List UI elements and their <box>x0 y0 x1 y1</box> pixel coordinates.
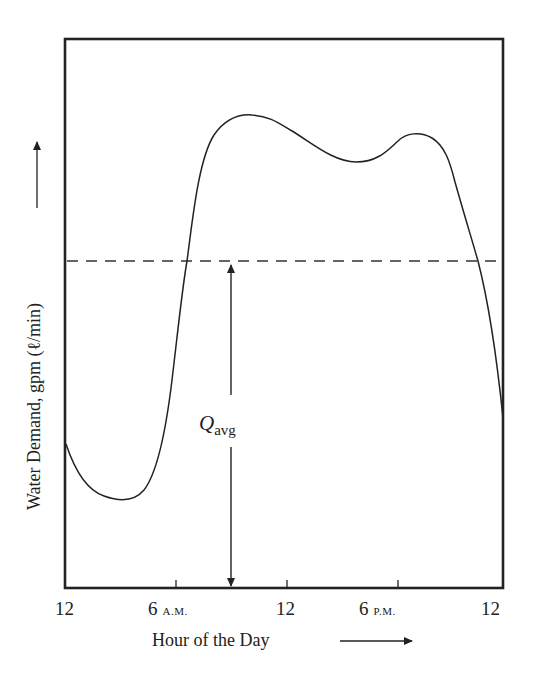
chart-canvas: Qavg 12 6A.M. 12 6P.M. 12 Hour of the Da… <box>0 0 541 677</box>
demand-curve <box>66 115 503 500</box>
tick-label-12am: 12 <box>55 598 74 619</box>
tick-label-6am: 6A.M. <box>148 598 188 619</box>
q-avg-label-subscript: avg <box>214 422 236 438</box>
tick-label-6pm: 6P.M. <box>359 598 396 619</box>
q-avg-label-main: Q <box>199 411 214 435</box>
tick-label-12pm-end: 12 <box>481 598 500 619</box>
tick-label-noon: 12 <box>276 598 295 619</box>
plot-frame <box>65 39 503 588</box>
x-tick-labels: 12 6A.M. 12 6P.M. 12 <box>55 598 500 619</box>
q-avg-label: Qavg <box>199 411 236 438</box>
y-axis-title: Water Demand, gpm (ℓ/min) <box>24 303 45 510</box>
x-axis-title: Hour of the Day <box>152 630 269 650</box>
